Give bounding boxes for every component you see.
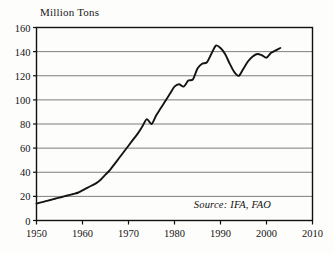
axis-ticks bbox=[33, 28, 313, 225]
y-tick-140: 140 bbox=[0, 46, 31, 57]
y-tick-120: 120 bbox=[0, 70, 31, 81]
x-tick-1970: 1970 bbox=[118, 228, 139, 239]
data-series bbox=[37, 45, 281, 203]
chart-plot-area bbox=[0, 0, 333, 253]
x-tick-1960: 1960 bbox=[72, 228, 93, 239]
x-tick-2010: 2010 bbox=[302, 228, 323, 239]
x-tick-1950: 1950 bbox=[26, 228, 47, 239]
grid-lines bbox=[37, 52, 313, 197]
y-tick-20: 20 bbox=[0, 191, 31, 202]
fertilizer-consumption-chart: Million Tons 020406080100120140160 19501… bbox=[0, 0, 333, 253]
y-tick-100: 100 bbox=[0, 94, 31, 105]
y-tick-60: 60 bbox=[0, 143, 31, 154]
x-tick-1980: 1980 bbox=[164, 228, 185, 239]
x-tick-1990: 1990 bbox=[210, 228, 231, 239]
y-tick-40: 40 bbox=[0, 167, 31, 178]
y-tick-160: 160 bbox=[0, 22, 31, 33]
y-tick-0: 0 bbox=[0, 215, 31, 226]
y-tick-80: 80 bbox=[0, 119, 31, 130]
x-tick-2000: 2000 bbox=[256, 228, 277, 239]
source-annotation: Source: IFA, FAO bbox=[194, 199, 271, 210]
